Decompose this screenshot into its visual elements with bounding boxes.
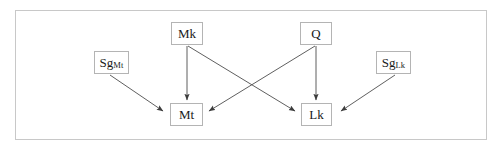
node-mt-label: Mt [179,108,194,121]
node-mk-label: Mk [178,27,196,40]
node-sg-lk-subscript: Lk [395,61,405,70]
node-sg-mt[interactable]: SgMt [94,51,129,74]
node-lk[interactable]: Lk [301,103,332,126]
node-mt[interactable]: Mt [170,103,203,126]
node-sg-mt-subscript: Mt [113,61,123,70]
diagram-figure: Mk Q SgMt SgLk Mt Lk [0,0,504,151]
node-lk-label: Lk [309,108,323,121]
node-q[interactable]: Q [300,22,332,45]
node-sg-lk-label: Sg [382,56,396,69]
node-sg-lk[interactable]: SgLk [376,51,411,74]
node-mk[interactable]: Mk [171,22,203,45]
node-q-label: Q [311,27,320,40]
node-sg-mt-label: Sg [99,56,113,69]
outer-frame [15,10,487,140]
